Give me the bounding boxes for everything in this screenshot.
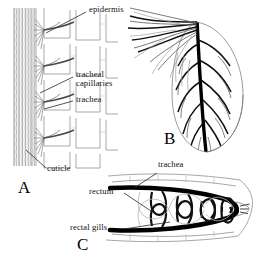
label-trachea-a: trachea	[76, 95, 102, 104]
label-tracheal-capillaries-line2: capillaries	[76, 78, 112, 88]
leader-epidermis	[46, 12, 86, 33]
label-epidermis: epidermis	[89, 5, 124, 14]
panel-b-artwork	[128, 8, 243, 153]
panel-c-artwork	[106, 173, 253, 242]
figure-canvas: epidermis tracheal capillaries trachea c…	[0, 0, 266, 273]
label-tracheal-capillaries: tracheal capillaries	[76, 70, 132, 89]
figure-artwork	[0, 0, 266, 273]
rectal-lower-trachea	[110, 209, 237, 231]
label-cuticle: cuticle	[47, 164, 71, 173]
label-rectum: rectum	[89, 187, 113, 196]
panel-letter-c: C	[77, 236, 88, 253]
figure-caption	[6, 264, 260, 272]
leader-tracheal-capillaries	[40, 77, 73, 93]
cuticle-band	[14, 8, 36, 166]
panel-letter-a: A	[18, 179, 30, 196]
leader-trachea-a	[44, 101, 73, 109]
leader-lines-c	[124, 173, 170, 229]
label-trachea-c: trachea	[158, 160, 184, 169]
panel-letter-b: B	[164, 130, 175, 147]
tracheal-capillary-tufts	[34, 20, 60, 157]
label-rectal-gills: rectal gills	[70, 223, 107, 232]
trachea-trunks-a	[44, 22, 74, 138]
